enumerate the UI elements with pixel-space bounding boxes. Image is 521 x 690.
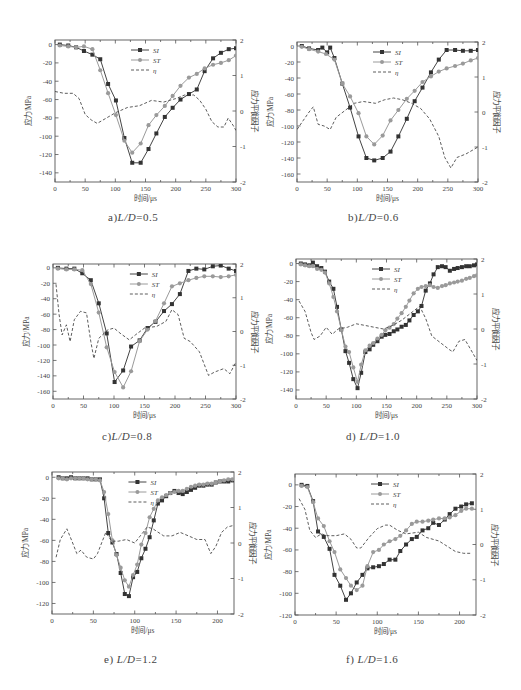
st-marker	[355, 588, 359, 592]
si-marker	[344, 598, 348, 602]
x-tick-label: 50	[333, 618, 341, 626]
y-tick-label: -100	[279, 590, 292, 598]
si-marker	[382, 562, 386, 566]
y-tick-label: -40	[283, 525, 293, 533]
legend: SISTη	[371, 481, 402, 509]
x-tick-label: 100	[372, 618, 383, 626]
st-marker	[393, 537, 397, 541]
si-marker	[453, 507, 457, 511]
st-marker	[398, 534, 402, 538]
si-marker	[398, 549, 402, 553]
st-marker	[316, 516, 320, 520]
st-marker	[377, 548, 381, 552]
y-right-tick-label: 1	[480, 506, 484, 514]
caption-ratio: L/D	[358, 653, 377, 665]
x-tick-label: 200	[454, 618, 465, 626]
y-tick-label: -20	[283, 503, 293, 511]
st-marker	[382, 542, 386, 546]
si-marker	[322, 535, 326, 539]
st-marker	[311, 500, 315, 504]
si-marker	[415, 535, 419, 539]
si-marker	[377, 564, 381, 568]
si-marker	[328, 547, 332, 551]
st-marker	[459, 509, 463, 513]
st-marker	[448, 515, 452, 519]
y-tick-label: -120	[279, 612, 292, 620]
si-marker	[316, 529, 320, 533]
st-marker	[344, 576, 348, 580]
x-tick-label: 150	[413, 618, 424, 626]
si-marker	[459, 505, 463, 509]
si-marker	[464, 502, 468, 506]
st-marker	[426, 519, 430, 523]
si-marker	[426, 526, 430, 530]
caption-value: =1.6	[376, 653, 398, 665]
y-right-tick-label: 2	[480, 471, 484, 479]
st-marker	[410, 522, 414, 526]
st-marker	[322, 524, 326, 528]
si-marker	[388, 558, 392, 562]
si-marker	[421, 528, 425, 532]
chart-svg: 0501001502000-20-40-60-80-100-120210-1-2…	[0, 0, 521, 690]
st-marker	[365, 564, 369, 568]
st-marker	[404, 528, 408, 532]
st-marker	[453, 513, 457, 517]
caption-f: f) L/D=1.6	[346, 653, 398, 665]
st-marker	[360, 584, 364, 588]
legend-label: η	[393, 501, 397, 509]
st-marker	[338, 567, 342, 571]
si-marker	[437, 523, 441, 527]
si-marker	[470, 501, 474, 505]
si-marker	[332, 573, 336, 577]
chart-f: 0501001502000-20-40-60-80-100-120210-1-2…	[0, 0, 521, 690]
st-marker	[388, 539, 392, 543]
st-marker	[299, 484, 303, 488]
si-marker	[338, 584, 342, 588]
y-tick-label: -80	[283, 568, 293, 576]
si-marker	[349, 591, 353, 595]
si-marker	[393, 558, 397, 562]
y-tick-label: -60	[283, 546, 293, 554]
caption-prefix: f)	[346, 653, 358, 665]
y-right-axis-label: 应力平衡因子	[490, 524, 500, 567]
si-marker	[404, 543, 408, 547]
st-marker	[431, 517, 435, 521]
x-tick-label: 0	[293, 618, 297, 626]
y-right-tick-label: -1	[480, 576, 486, 584]
si-marker	[360, 573, 364, 577]
y-right-tick-label: -2	[480, 612, 486, 620]
x-axis-label: 时间/μs	[374, 626, 397, 636]
y-right-tick-label: 0	[480, 541, 484, 549]
si-marker	[371, 565, 375, 569]
legend-label: ST	[393, 491, 402, 499]
y-axis-label: 应力/MPa	[263, 529, 273, 560]
st-line	[302, 486, 472, 590]
st-marker	[470, 507, 474, 511]
st-marker	[332, 550, 336, 554]
st-marker	[371, 550, 375, 554]
st-marker	[420, 520, 424, 524]
st-marker	[464, 507, 468, 511]
si-marker	[410, 537, 414, 541]
st-marker	[437, 516, 441, 520]
y-tick-label: 0	[289, 481, 293, 489]
st-marker	[415, 520, 419, 524]
si-marker	[355, 580, 359, 584]
st-marker	[349, 584, 353, 588]
st-marker	[443, 516, 447, 520]
legend-label: SI	[393, 481, 400, 489]
st-marker	[327, 539, 331, 543]
st-marker	[305, 485, 309, 489]
